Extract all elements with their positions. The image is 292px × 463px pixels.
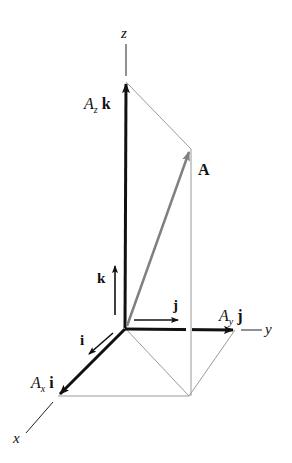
ay-unit: j bbox=[237, 307, 242, 324]
x-axis-label: x bbox=[13, 431, 20, 446]
ax-i-arrow bbox=[60, 329, 125, 394]
ay-A: A bbox=[219, 307, 229, 324]
ax-sub: x bbox=[41, 383, 45, 394]
az-A: A bbox=[84, 95, 94, 112]
y-axis-label: y bbox=[265, 322, 272, 337]
construction-lines bbox=[58, 82, 235, 396]
x-axis-line bbox=[26, 402, 53, 433]
ax-unit: i bbox=[49, 374, 53, 391]
vector-components-diagram: z y x A Az k Ay j Ax i k j i bbox=[0, 0, 292, 463]
axis-lines bbox=[26, 44, 262, 433]
ax-A: A bbox=[31, 374, 41, 391]
az-k-arrow bbox=[125, 84, 126, 328]
az-unit: k bbox=[102, 95, 111, 112]
vector-a-arrow bbox=[127, 152, 189, 326]
ax-i-label: Ax i bbox=[31, 375, 54, 391]
vector-a-label: A bbox=[198, 162, 210, 178]
ay-sub: y bbox=[229, 316, 233, 327]
unit-i-label: i bbox=[80, 333, 84, 348]
unit-j-label: j bbox=[173, 298, 178, 313]
unit-k-label: k bbox=[97, 271, 105, 286]
az-sub: z bbox=[94, 104, 98, 115]
ay-j-label: Ay j bbox=[219, 308, 243, 324]
ay-j-arrow bbox=[125, 329, 233, 330]
z-axis-label: z bbox=[121, 26, 127, 41]
az-k-label: Az k bbox=[84, 96, 111, 112]
